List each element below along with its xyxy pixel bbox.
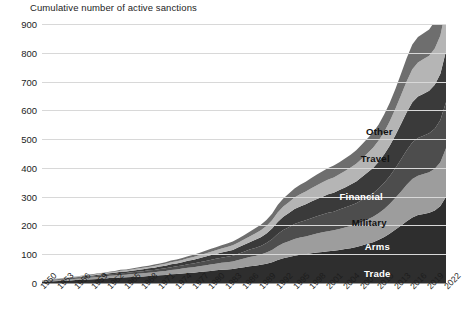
series-label-arms: Arms	[365, 241, 390, 252]
gridline	[42, 139, 446, 140]
gridline	[42, 24, 446, 25]
y-axis-tick-label: 500	[21, 134, 37, 145]
gridline	[42, 82, 446, 83]
series-label-travel: Travel	[361, 153, 390, 164]
y-axis-tick-label: 300	[21, 191, 37, 202]
series-label-financial: Financial	[339, 191, 382, 202]
gridline	[42, 53, 446, 54]
y-axis-tick-label: 900	[21, 19, 37, 30]
series-label-other: Other	[366, 126, 393, 137]
gridline	[42, 110, 446, 111]
series-label-military: Military	[352, 217, 387, 228]
y-axis-tick-label: 700	[21, 76, 37, 87]
x-axis-ticks: 1950195319561959196219651968197119741977…	[42, 284, 446, 331]
y-axis-tick-label: 600	[21, 105, 37, 116]
gridline	[42, 254, 446, 255]
chart-title: Cumulative number of active sanctions	[30, 2, 197, 13]
series-label-trade: Trade	[364, 268, 391, 279]
y-axis-tick-label: 400	[21, 162, 37, 173]
y-axis-tick-label: 0	[32, 278, 37, 289]
gridline	[42, 168, 446, 169]
y-axis-tick-label: 800	[21, 47, 37, 58]
y-axis-tick-label: 100	[21, 249, 37, 260]
y-axis-tick-label: 200	[21, 220, 37, 231]
gridline	[42, 197, 446, 198]
